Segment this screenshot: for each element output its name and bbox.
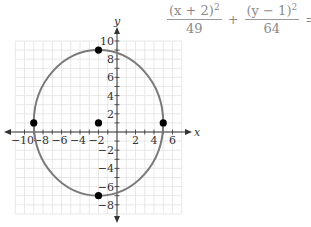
x-tick-label: 6 (169, 134, 176, 147)
y-tick-label: −4 (98, 162, 114, 175)
x-tick-label: −10 (11, 134, 34, 147)
y-axis-down-arrow-icon (114, 216, 120, 223)
x-tick-label: −4 (70, 134, 86, 147)
x-tick-label: 4 (151, 134, 158, 147)
numerator-y: (y − 1)2 (245, 2, 300, 20)
exponent-x: 2 (214, 2, 220, 12)
y-tick-label: −2 (98, 144, 114, 157)
y-tick-label: 4 (107, 90, 114, 103)
point-center (95, 119, 102, 126)
fraction-y-term: (y − 1)2 64 (245, 2, 300, 36)
point-co-vertex-left (30, 119, 37, 126)
point-co-vertex-right (160, 119, 167, 126)
y-tick-label: −8 (98, 199, 114, 212)
equals-one: = 1 (305, 12, 311, 27)
x-axis-right-arrow-icon (185, 129, 192, 135)
y-tick-label: 6 (107, 71, 114, 84)
y-tick-label: 2 (107, 108, 114, 121)
numerator-x-text: (x + 2) (169, 3, 214, 18)
point-vertex-top (95, 47, 102, 54)
y-axis-up-arrow-icon (114, 27, 120, 34)
ellipse-equation: (x + 2)2 49 + (y − 1)2 64 = 1 (167, 2, 311, 36)
point-vertex-bottom (95, 192, 102, 199)
y-axis-label: y (113, 15, 121, 28)
y-tick-label: −6 (98, 181, 114, 194)
numerator-x: (x + 2)2 (167, 2, 222, 20)
denominator-y: 64 (264, 20, 281, 36)
x-tick-label: −6 (51, 134, 67, 147)
exponent-y: 2 (291, 2, 297, 12)
plus-sign: + (228, 12, 239, 27)
y-tick-label: 10 (100, 35, 114, 48)
fraction-x-term: (x + 2)2 49 (167, 2, 222, 36)
y-tick-label: 8 (107, 53, 114, 66)
x-axis-label: x (194, 126, 201, 139)
denominator-x: 49 (186, 20, 203, 36)
numerator-y-text: (y − 1) (247, 3, 292, 18)
x-tick-label: 2 (132, 134, 139, 147)
